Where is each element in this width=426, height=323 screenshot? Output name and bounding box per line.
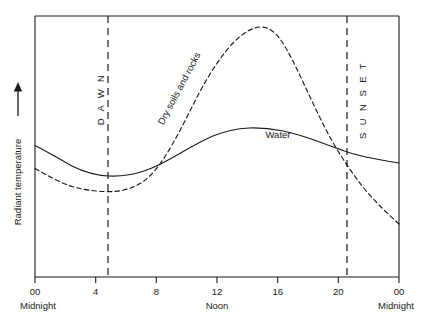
x-tick-label-16: 16 [272, 286, 283, 297]
x-tick-label-4: 4 [93, 286, 98, 297]
curve-dry-soils-and-rocks [35, 27, 399, 224]
x-label-midnight-right: Midnight [378, 300, 414, 311]
series-label-dry-soils: Dry soils and rocks [155, 50, 203, 126]
x-tick-label-12: 12 [212, 286, 223, 297]
chart-canvas: D A W N S U N S E T Dry soils and rocks … [0, 0, 426, 323]
up-arrow-icon [14, 82, 22, 92]
x-axis-ticks [35, 277, 399, 283]
sunset-label: S U N S E T [357, 61, 368, 139]
x-label-noon: Noon [206, 300, 229, 311]
x-tick-label-0: 00 [30, 286, 41, 297]
x-axis-secondary-labels: Midnight Noon Midnight [20, 300, 414, 311]
x-tick-label-8: 8 [154, 286, 159, 297]
x-tick-label-20: 20 [333, 286, 344, 297]
dawn-label: D A W N [95, 73, 106, 126]
x-tick-label-24: 00 [394, 286, 405, 297]
series-label-water: Water [266, 129, 291, 140]
y-axis-title-group: Radiant temperature [12, 82, 23, 225]
x-label-midnight-left: Midnight [20, 300, 56, 311]
radiant-temperature-chart: D A W N S U N S E T Dry soils and rocks … [0, 0, 426, 323]
curve-water [35, 128, 399, 176]
x-axis-tick-labels: 00 4 8 12 16 20 00 [30, 286, 405, 297]
y-axis-title: Radiant temperature [12, 139, 23, 226]
